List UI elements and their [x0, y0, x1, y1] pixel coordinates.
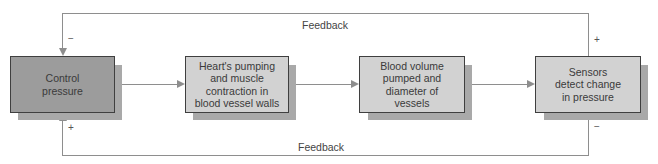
sensors-box-line-2: detect change	[555, 78, 621, 91]
blood-volume-box: Blood volume pumped and diameter of vess…	[359, 56, 465, 113]
sign-top-right: +	[594, 34, 600, 45]
volume-box-line-3: diameter of	[380, 85, 444, 98]
heart-box-line-1: Heart's pumping	[195, 60, 280, 73]
feedback-bottom-left-vertical-line	[62, 120, 63, 156]
heart-pumping-box: Heart's pumping and muscle contraction i…	[185, 56, 289, 113]
arrow-heart-to-volume-icon	[351, 80, 359, 88]
arrow-control-to-heart-line	[114, 84, 178, 85]
feedback-bottom-label: Feedback	[298, 141, 344, 153]
heart-box-line-4: blood vessel walls	[195, 97, 280, 110]
arrow-control-to-heart-icon	[177, 80, 185, 88]
sensors-box-line-3: in pressure	[555, 91, 621, 104]
sensors-box: Sensors detect change in pressure	[535, 56, 641, 113]
sensors-box-line-1: Sensors	[555, 66, 621, 79]
feedback-top-arrowhead-icon	[59, 48, 67, 56]
arrow-volume-to-sensors-icon	[527, 80, 535, 88]
feedback-top-left-vertical-line	[62, 13, 63, 50]
control-box-line-2: pressure	[42, 85, 83, 98]
control-pressure-box: Control pressure	[10, 56, 115, 113]
feedback-bottom-horizontal-line	[62, 155, 589, 156]
heart-box-line-2: and muscle	[195, 72, 280, 85]
sign-top-left: −	[68, 33, 74, 44]
feedback-top-label: Feedback	[302, 19, 348, 31]
sign-bottom-left: +	[68, 122, 74, 133]
heart-box-line-3: contraction in	[195, 85, 280, 98]
sign-bottom-right: −	[594, 121, 600, 132]
feedback-top-right-vertical-line	[588, 13, 589, 57]
volume-box-line-4: vessels	[380, 97, 444, 110]
volume-box-line-2: pumped and	[380, 72, 444, 85]
feedback-top-horizontal-line	[62, 13, 589, 14]
volume-box-line-1: Blood volume	[380, 60, 444, 73]
arrow-volume-to-sensors-line	[464, 84, 528, 85]
arrow-heart-to-volume-line	[288, 84, 352, 85]
control-box-line-1: Control	[42, 72, 83, 85]
